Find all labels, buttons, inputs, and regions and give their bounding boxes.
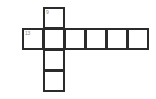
crossword-cell[interactable] xyxy=(43,70,65,92)
crossword-cell[interactable] xyxy=(127,28,149,50)
crossword-cell[interactable] xyxy=(85,28,107,50)
crossword-cell[interactable] xyxy=(64,28,86,50)
crossword-grid: 913 xyxy=(0,0,156,99)
crossword-cell[interactable] xyxy=(43,49,65,71)
crossword-cell[interactable]: 13 xyxy=(22,28,44,50)
cell-number: 13 xyxy=(25,30,30,36)
crossword-cell[interactable]: 9 xyxy=(43,7,65,29)
cell-number: 9 xyxy=(46,9,48,15)
crossword-figure: 913 xyxy=(0,0,156,99)
crossword-cell[interactable] xyxy=(106,28,128,50)
crossword-cell[interactable] xyxy=(43,28,65,50)
